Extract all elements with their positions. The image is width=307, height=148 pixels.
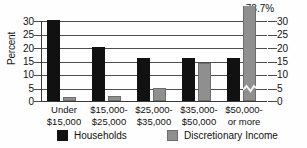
y-tickmark-right-0 <box>268 101 277 102</box>
y-tickmark-left-20 <box>34 48 41 49</box>
y-tickmark-right-5 <box>268 89 277 90</box>
y-tick-left-30: 30 <box>12 17 34 27</box>
y-tick-right-30: 30 <box>277 17 299 27</box>
category-label-1-line2: $15,000 <box>41 116 87 128</box>
bar-chart: Percent 30 25 20 15 10 5 0 30 25 20 15 1… <box>0 0 307 148</box>
bar-group-35000-50000 <box>179 21 223 101</box>
y-axis-right-ticks: 30 25 20 15 10 5 0 <box>277 21 301 102</box>
bar-households-3[interactable] <box>137 58 150 101</box>
category-label-2-line2: $25,000 <box>86 116 132 128</box>
legend-swatch-discretionary-icon <box>167 130 178 141</box>
y-tick-right-5: 5 <box>277 84 299 94</box>
legend-item-discretionary-income[interactable]: Discretionary Income <box>167 130 278 141</box>
bar-discretionary-3[interactable] <box>153 88 166 102</box>
category-label-2: $15,000- $25,000 <box>86 104 132 127</box>
x-axis-category-labels: Under $15,000 $15,000- $25,000 $25,000- … <box>41 104 267 128</box>
y-tick-left-15: 15 <box>12 57 34 67</box>
legend-item-households[interactable]: Households <box>57 130 127 141</box>
y-tick-left-5: 5 <box>12 84 34 94</box>
category-label-5: $50,000- or more <box>221 104 267 127</box>
y-tickmark-left-15 <box>34 62 41 63</box>
axis-break-icon <box>243 84 256 93</box>
bar-households-1[interactable] <box>47 20 60 101</box>
y-tickmark-right-10 <box>268 75 277 76</box>
bar-group-50000-or-more <box>224 21 268 101</box>
data-label-peak: 78.7% <box>232 3 288 14</box>
bar-discretionary-1[interactable] <box>63 97 76 101</box>
category-label-5-line1: $50,000- <box>225 104 263 115</box>
y-tick-right-10: 10 <box>277 70 299 80</box>
bar-households-4[interactable] <box>182 58 195 101</box>
y-tick-right-0: 0 <box>277 97 299 107</box>
bar-group-25000-35000 <box>134 21 178 101</box>
category-label-1-line1: Under <box>51 104 77 115</box>
y-tick-left-25: 25 <box>12 30 34 40</box>
chart-legend: Households Discretionary Income <box>0 130 307 146</box>
y-tickmark-right-25 <box>268 35 277 36</box>
category-label-3-line1: $25,000- <box>135 104 173 115</box>
category-label-2-line1: $15,000- <box>90 104 128 115</box>
legend-swatch-households-icon <box>57 130 68 141</box>
y-tickmark-right-30 <box>268 21 277 22</box>
category-label-1: Under $15,000 <box>41 104 87 127</box>
y-tick-right-25: 25 <box>277 30 299 40</box>
y-tick-right-20: 20 <box>277 44 299 54</box>
y-tickmark-left-25 <box>34 35 41 36</box>
category-label-5-line2: or more <box>221 116 267 128</box>
y-tick-right-15: 15 <box>277 57 299 67</box>
y-tickmark-right-20 <box>268 48 277 49</box>
category-label-4: $35,000- $50,000 <box>176 104 222 127</box>
legend-label-households: Households <box>74 130 127 141</box>
bar-discretionary-2[interactable] <box>108 96 121 101</box>
bar-group-15000-25000 <box>89 21 133 101</box>
category-label-3-line2: $35,000 <box>131 116 177 128</box>
category-label-4-line1: $35,000- <box>180 104 218 115</box>
y-tickmark-left-10 <box>34 75 41 76</box>
category-label-3: $25,000- $35,000 <box>131 104 177 127</box>
y-tickmark-left-5 <box>34 89 41 90</box>
legend-label-discretionary-income: Discretionary Income <box>184 130 278 141</box>
category-label-4-line2: $50,000 <box>176 116 222 128</box>
plot-area <box>41 21 267 102</box>
y-tickmark-left-30 <box>34 21 41 22</box>
bar-households-2[interactable] <box>92 47 105 101</box>
bar-group-under-15000 <box>44 21 88 101</box>
y-tick-left-20: 20 <box>12 44 34 54</box>
y-tickmark-left-0 <box>34 101 41 102</box>
y-tick-left-0: 0 <box>12 97 34 107</box>
y-tickmark-right-15 <box>268 62 277 63</box>
bar-discretionary-5[interactable] <box>243 6 256 101</box>
bar-households-5[interactable] <box>227 58 240 101</box>
bar-discretionary-4[interactable] <box>198 63 211 101</box>
y-tick-left-10: 10 <box>12 70 34 80</box>
y-axis-left-ticks: 30 25 20 15 10 5 0 <box>12 21 34 102</box>
